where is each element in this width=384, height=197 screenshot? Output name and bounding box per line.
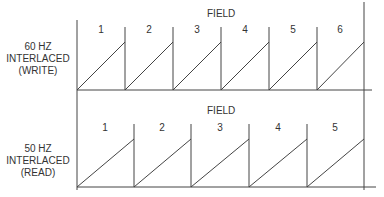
label-line: (WRITE)	[0, 65, 76, 77]
read-field-number: 1	[95, 122, 115, 133]
label-line: (READ)	[0, 167, 76, 179]
label-line: INTERLACED	[0, 53, 76, 65]
write-field-title: FIELD	[207, 8, 235, 19]
read-field-number: 5	[325, 122, 345, 133]
write-field-number: 1	[91, 24, 111, 35]
write-field-number: 2	[139, 24, 159, 35]
label-line: 60 HZ	[0, 41, 76, 53]
write-field-number: 4	[235, 24, 255, 35]
read-field-number: 2	[152, 122, 172, 133]
write-field-number: 3	[187, 24, 207, 35]
read-field-number: 4	[268, 122, 288, 133]
label-line: INTERLACED	[0, 155, 76, 167]
write-row-label: 60 HZ INTERLACED (WRITE)	[0, 41, 76, 77]
label-line: 50 HZ	[0, 143, 76, 155]
write-field-number: 6	[330, 24, 350, 35]
read-row-label: 50 HZ INTERLACED (READ)	[0, 143, 76, 179]
read-field-title: FIELD	[207, 105, 235, 116]
write-field-number: 5	[283, 24, 303, 35]
read-field-number: 3	[210, 122, 230, 133]
